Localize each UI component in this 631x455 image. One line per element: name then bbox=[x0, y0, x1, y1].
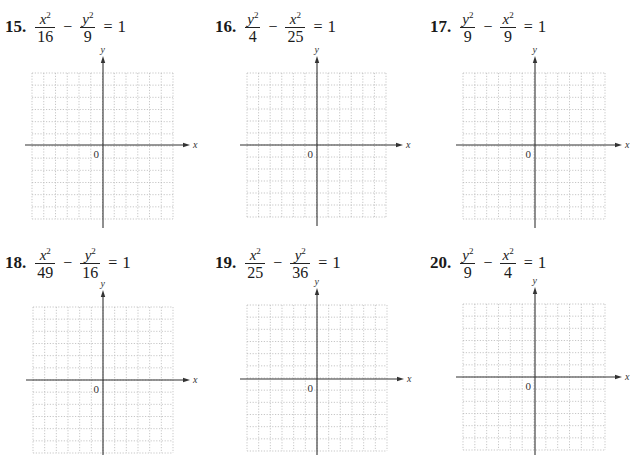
x-axis-arrow-icon bbox=[615, 375, 622, 379]
y-axis-arrow-icon bbox=[533, 287, 537, 294]
x-axis-label: x bbox=[624, 371, 630, 382]
coordinate-grid[interactable]: xy0 bbox=[0, 0, 631, 455]
origin-label: 0 bbox=[526, 380, 532, 392]
y-axis-label: y bbox=[532, 275, 538, 286]
